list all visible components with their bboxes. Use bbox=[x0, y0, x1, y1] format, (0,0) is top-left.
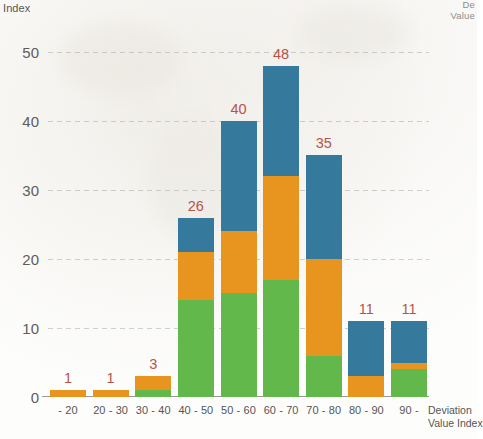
bar-segment-orange[interactable] bbox=[306, 259, 342, 356]
bar-value-label: 40 bbox=[230, 101, 246, 117]
y-axis-title: Index bbox=[3, 2, 30, 14]
stacked-bar[interactable] bbox=[178, 218, 214, 398]
bar-value-label: 35 bbox=[316, 135, 332, 151]
bar-segment-orange[interactable] bbox=[93, 390, 129, 397]
bar-segment-green[interactable] bbox=[135, 390, 171, 397]
bar-segment-blue[interactable] bbox=[348, 321, 384, 376]
y-axis-tick-label: 0 bbox=[31, 389, 39, 406]
x-axis-tick-label: 90 - bbox=[391, 404, 427, 416]
bar-value-label: 48 bbox=[273, 46, 289, 62]
x-axis-tick-label: 40 - 50 bbox=[178, 404, 214, 416]
bar-value-label: 1 bbox=[107, 370, 115, 386]
stacked-bar[interactable] bbox=[348, 321, 384, 397]
bar-group[interactable]: 40 bbox=[221, 38, 257, 397]
bar-series: 113264048351111 bbox=[48, 38, 429, 397]
bar-group[interactable]: 1 bbox=[50, 38, 86, 397]
y-axis-tick-label: 30 bbox=[22, 181, 39, 198]
stacked-bar[interactable] bbox=[306, 155, 342, 397]
cropped-header-line1: De bbox=[450, 0, 475, 10]
bar-segment-blue[interactable] bbox=[263, 66, 299, 176]
bar-group[interactable]: 11 bbox=[348, 38, 384, 397]
stacked-bar[interactable] bbox=[263, 66, 299, 397]
x-axis-title: Deviation Value Index bbox=[428, 404, 483, 429]
x-axis-title-line1: Deviation bbox=[428, 404, 483, 417]
bar-segment-green[interactable] bbox=[221, 293, 257, 397]
bar-value-label: 26 bbox=[188, 198, 204, 214]
bar-segment-orange[interactable] bbox=[135, 376, 171, 390]
stacked-bar[interactable] bbox=[391, 321, 427, 397]
y-axis-tick-label: 40 bbox=[22, 112, 39, 129]
stacked-bar[interactable] bbox=[135, 376, 171, 397]
x-axis-tick-label: 70 - 80 bbox=[306, 404, 342, 416]
cropped-header-line2: Value bbox=[450, 10, 475, 21]
x-axis-tick-label: 80 - 90 bbox=[348, 404, 384, 416]
stacked-bar[interactable] bbox=[93, 390, 129, 397]
bar-value-label: 1 bbox=[64, 370, 72, 386]
cropped-header-note: De Value bbox=[450, 0, 475, 21]
bar-value-label: 3 bbox=[149, 356, 157, 372]
bar-value-label: 11 bbox=[359, 301, 374, 317]
bar-value-label: 11 bbox=[401, 301, 416, 317]
x-axis-tick-labels: - 2020 - 3030 - 4040 - 5050 - 6060 - 707… bbox=[48, 404, 429, 416]
x-axis-tick-label: 30 - 40 bbox=[135, 404, 171, 416]
bar-segment-blue[interactable] bbox=[391, 321, 427, 362]
bar-segment-orange[interactable] bbox=[178, 252, 214, 300]
bar-segment-orange[interactable] bbox=[50, 390, 86, 397]
bar-segment-orange[interactable] bbox=[391, 363, 427, 370]
stacked-bar[interactable] bbox=[50, 390, 86, 397]
bar-segment-orange[interactable] bbox=[348, 376, 384, 397]
y-axis-tick-label: 10 bbox=[22, 319, 39, 336]
stacked-bar[interactable] bbox=[221, 121, 257, 397]
x-axis-tick-label: 60 - 70 bbox=[263, 404, 299, 416]
x-axis-tick-label: - 20 bbox=[50, 404, 86, 416]
bar-group[interactable]: 48 bbox=[263, 38, 299, 397]
bar-segment-green[interactable] bbox=[263, 280, 299, 397]
bar-group[interactable]: 11 bbox=[391, 38, 427, 397]
y-axis-tick-label: 50 bbox=[22, 43, 39, 60]
x-axis-tick-label: 50 - 60 bbox=[221, 404, 257, 416]
bar-segment-blue[interactable] bbox=[306, 155, 342, 259]
bar-group[interactable]: 1 bbox=[93, 38, 129, 397]
plot-area: 01020304050 113264048351111 bbox=[48, 38, 429, 397]
bar-segment-orange[interactable] bbox=[263, 176, 299, 280]
x-axis-tick-label: 20 - 30 bbox=[93, 404, 129, 416]
bar-segment-blue[interactable] bbox=[178, 218, 214, 253]
bar-segment-green[interactable] bbox=[391, 369, 427, 397]
y-axis-tick-label: 20 bbox=[22, 250, 39, 267]
x-axis-title-line2: Value Index bbox=[428, 417, 483, 430]
bar-segment-orange[interactable] bbox=[221, 231, 257, 293]
bar-segment-blue[interactable] bbox=[221, 121, 257, 231]
bar-group[interactable]: 26 bbox=[178, 38, 214, 397]
bar-group[interactable]: 35 bbox=[306, 38, 342, 397]
bar-group[interactable]: 3 bbox=[135, 38, 171, 397]
bar-segment-green[interactable] bbox=[306, 356, 342, 397]
bar-segment-green[interactable] bbox=[178, 300, 214, 397]
